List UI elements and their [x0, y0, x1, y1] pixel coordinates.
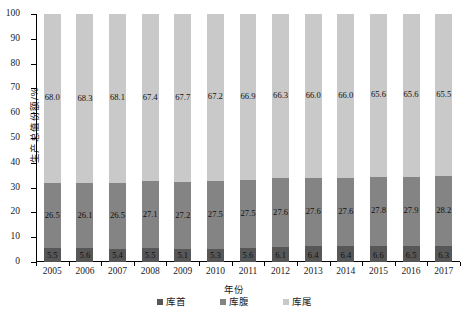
plot-area: 0102030405060708090100 5.526.568.05.626.…: [36, 14, 460, 262]
bar-segment[interactable]: 6.4: [305, 246, 322, 262]
legend-swatch-icon: [220, 299, 226, 305]
bar-segment[interactable]: 27.6: [305, 178, 322, 246]
bar-group[interactable]: 6.527.965.6: [403, 14, 420, 262]
bar-value-label: 27.2: [174, 211, 191, 220]
bar-group[interactable]: 6.427.666.0: [337, 14, 354, 262]
bar-segment[interactable]: 5.6: [76, 248, 93, 262]
bar-segment[interactable]: 66.9: [240, 14, 257, 180]
bar-value-label: 66.9: [240, 92, 257, 101]
bar-value-label: 27.6: [305, 207, 322, 216]
bar-value-label: 5.3: [207, 251, 224, 260]
bar-segment[interactable]: 66.0: [337, 14, 354, 178]
bar-value-label: 26.5: [109, 211, 126, 220]
bar-segment[interactable]: 5.6: [240, 248, 257, 262]
bar-segment[interactable]: 5.3: [207, 249, 224, 262]
x-axis-tick-label: 2017: [424, 266, 464, 276]
bar-value-label: 27.6: [272, 208, 289, 217]
bar-segment[interactable]: 66.0: [305, 14, 322, 178]
y-axis-tick-label: 0: [0, 257, 20, 267]
bar-segment[interactable]: 27.5: [240, 180, 257, 248]
bar-group[interactable]: 6.627.865.6: [370, 14, 387, 262]
bar-segment[interactable]: 67.4: [142, 14, 159, 181]
bar-segment[interactable]: 27.2: [174, 182, 191, 249]
bar-value-label: 68.0: [44, 93, 61, 102]
legend-item[interactable]: 库腹: [220, 297, 249, 307]
bar-segment[interactable]: 6.6: [370, 246, 387, 262]
bar-value-label: 68.1: [109, 93, 126, 102]
bar-segment[interactable]: 26.1: [76, 183, 93, 248]
bar-segment[interactable]: 27.9: [403, 177, 420, 246]
bar-value-label: 5.6: [76, 251, 93, 260]
bar-value-label: 66.3: [272, 91, 289, 100]
bar-value-label: 6.6: [370, 251, 387, 260]
bar-group[interactable]: 5.426.568.1: [109, 14, 126, 262]
bar-group[interactable]: 5.127.267.7: [174, 14, 191, 262]
x-axis-title: 年份: [0, 282, 468, 296]
y-axis-tick-label: 10: [0, 232, 20, 242]
bar-segment[interactable]: 28.2: [435, 176, 452, 246]
bar-value-label: 66.0: [337, 91, 354, 100]
bar-value-label: 27.6: [337, 207, 354, 216]
bar-segment[interactable]: 68.1: [109, 14, 126, 183]
bar-value-label: 27.5: [240, 209, 257, 218]
bar-segment[interactable]: 65.6: [370, 14, 387, 177]
bar-group[interactable]: 6.328.265.5: [435, 14, 452, 262]
bar-segment[interactable]: 27.6: [272, 178, 289, 246]
bar-group[interactable]: 6.127.666.3: [272, 14, 289, 262]
bar-segment[interactable]: 5.5: [142, 248, 159, 262]
bar-value-label: 5.4: [109, 251, 126, 260]
bar-value-label: 6.3: [435, 251, 452, 260]
bar-value-label: 26.1: [76, 211, 93, 220]
y-axis-tick-label: 90: [0, 34, 20, 44]
x-axis-tick-labels: 2005200620072008200920102011201220132014…: [36, 266, 460, 280]
y-axis-tick-label: 80: [0, 59, 20, 69]
bar-segment[interactable]: 27.5: [207, 181, 224, 249]
bar-segment[interactable]: 65.5: [435, 14, 452, 176]
bar-value-label: 6.1: [272, 251, 289, 260]
legend-label: 库首: [166, 297, 186, 307]
bar-segment[interactable]: 5.1: [174, 249, 191, 262]
y-axis-tick-label: 100: [0, 9, 20, 19]
bar-segment[interactable]: 68.0: [44, 14, 61, 183]
legend-label: 库尾: [292, 297, 312, 307]
bar-value-label: 26.5: [44, 211, 61, 220]
bar-value-label: 65.5: [435, 90, 452, 99]
stacked-bar-chart: 生产总值份额/% 0102030405060708090100 5.526.56…: [0, 0, 468, 312]
bar-segment[interactable]: 5.5: [44, 248, 61, 262]
bar-value-label: 65.6: [403, 90, 420, 99]
bar-segment[interactable]: 68.3: [76, 14, 93, 183]
bar-value-label: 27.8: [370, 206, 387, 215]
bar-segment[interactable]: 27.8: [370, 177, 387, 246]
bar-group[interactable]: 5.626.168.3: [76, 14, 93, 262]
bar-group[interactable]: 5.327.567.2: [207, 14, 224, 262]
bar-value-label: 6.5: [403, 251, 420, 260]
y-axis-tick-label: 60: [0, 108, 20, 118]
y-axis-tick-label: 30: [0, 183, 20, 193]
bar-value-label: 67.4: [142, 93, 159, 102]
bar-segment[interactable]: 65.6: [403, 14, 420, 177]
bar-segment[interactable]: 26.5: [109, 183, 126, 249]
bar-segment[interactable]: 67.7: [174, 14, 191, 182]
bar-segment[interactable]: 6.1: [272, 247, 289, 262]
bar-segment[interactable]: 6.4: [337, 246, 354, 262]
legend-item[interactable]: 库尾: [283, 297, 312, 307]
legend-item[interactable]: 库首: [157, 297, 186, 307]
legend-swatch-icon: [157, 299, 163, 305]
bar-group[interactable]: 5.527.167.4: [142, 14, 159, 262]
bar-segment[interactable]: 27.6: [337, 178, 354, 246]
bar-group[interactable]: 5.627.566.9: [240, 14, 257, 262]
bar-value-label: 68.3: [76, 94, 93, 103]
bar-segment[interactable]: 67.2: [207, 14, 224, 181]
bar-group[interactable]: 6.427.666.0: [305, 14, 322, 262]
bar-segment[interactable]: 27.1: [142, 181, 159, 248]
bar-segment[interactable]: 66.3: [272, 14, 289, 178]
bar-value-label: 27.1: [142, 210, 159, 219]
legend-label: 库腹: [229, 297, 249, 307]
bar-segment[interactable]: 6.3: [435, 246, 452, 262]
bar-segment[interactable]: 5.4: [109, 249, 126, 262]
bar-value-label: 67.2: [207, 92, 224, 101]
bar-group[interactable]: 5.526.568.0: [44, 14, 61, 262]
y-axis-tick-label: 70: [0, 83, 20, 93]
bar-segment[interactable]: 26.5: [44, 183, 61, 249]
bar-segment[interactable]: 6.5: [403, 246, 420, 262]
